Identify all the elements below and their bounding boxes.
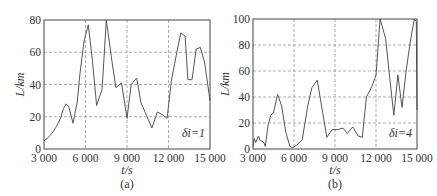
x-axis-label: t/s <box>329 163 341 177</box>
y-tick-label: 80 <box>30 14 42 26</box>
x-tick-label: 15 000 <box>194 152 226 164</box>
y-axis-label: L/km <box>218 72 232 97</box>
figure: 0204060803 0006 0009 00012 00015 000t/sL… <box>0 0 437 196</box>
x-tick-label: 12 000 <box>360 152 392 164</box>
chart-panel-b: 0204060801003 0006 0009 00012 00015 000t… <box>218 13 433 191</box>
y-axis-label: L/km <box>13 72 27 97</box>
y-tick-label: 80 <box>239 39 251 51</box>
y-tick-label: 20 <box>239 117 251 129</box>
x-tick-label: 6 000 <box>73 152 99 164</box>
line-charts: 0204060803 0006 0009 00012 00015 000t/sL… <box>0 0 437 196</box>
x-tick-label: 6 000 <box>281 152 307 164</box>
y-tick-label: 40 <box>239 91 251 103</box>
y-tick-label: 60 <box>30 46 42 58</box>
x-tick-label: 15 000 <box>401 152 433 164</box>
annotation-delta-i: δi=4 <box>389 126 412 140</box>
y-tick-label: 60 <box>239 65 251 77</box>
x-tick-label: 12 000 <box>153 152 185 164</box>
annotation-delta-i: δi=1 <box>182 126 205 140</box>
y-tick-label: 40 <box>30 79 42 91</box>
panel-caption: (b) <box>328 177 342 191</box>
y-tick-label: 20 <box>30 111 42 123</box>
x-tick-label: 3 000 <box>31 152 57 164</box>
x-tick-label: 3 000 <box>240 152 266 164</box>
x-axis-label: t/s <box>121 163 133 177</box>
panel-caption: (a) <box>120 177 133 191</box>
y-tick-label: 100 <box>233 13 251 25</box>
chart-panel-a: 0204060803 0006 0009 00012 00015 000t/sL… <box>13 14 226 191</box>
